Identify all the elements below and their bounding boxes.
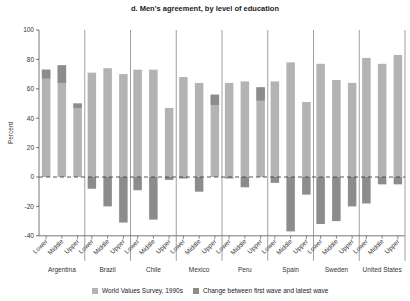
bar-wvs	[332, 80, 341, 177]
bar-wvs	[394, 55, 403, 177]
bar-wvs	[179, 77, 188, 177]
bar-wvs	[286, 62, 295, 177]
bar-change	[332, 177, 341, 221]
bar-change	[348, 177, 357, 206]
x-group-label: Spain	[282, 266, 299, 274]
x-sub-label: Middle	[321, 237, 340, 256]
bar-change	[149, 177, 158, 220]
y-axis-label: Percent	[7, 122, 14, 145]
bar-change	[378, 177, 387, 184]
y-tick-label: 60	[27, 85, 35, 92]
x-group-label: Mexico	[189, 266, 210, 273]
legend: World Values Survey, 1990s Change betwee…	[92, 287, 328, 294]
bar-wvs	[195, 83, 204, 177]
bar-wvs	[88, 73, 97, 177]
y-tick-label: -40	[25, 232, 35, 239]
bar-change	[73, 104, 82, 108]
x-sub-label: Middle	[183, 237, 202, 256]
bar-wvs	[378, 64, 387, 177]
bar-wvs	[316, 64, 325, 177]
x-group-label: Chile	[146, 266, 161, 273]
x-sub-label: Middle	[138, 237, 157, 256]
bar-change	[119, 177, 128, 223]
bar-wvs	[225, 83, 234, 177]
legend-item-wvs: World Values Survey, 1990s	[92, 287, 183, 294]
legend-swatch-wvs	[92, 288, 98, 294]
y-tick-label: 80	[27, 56, 35, 63]
bar-change	[302, 177, 311, 195]
x-group-label: Peru	[238, 266, 252, 273]
bar-change	[241, 177, 250, 187]
bar-wvs	[348, 83, 357, 177]
bar-change	[211, 95, 220, 105]
bar-change	[271, 177, 280, 183]
bar-wvs	[119, 74, 128, 177]
y-tick-label: -20	[25, 203, 35, 210]
x-sub-label: Middle	[46, 237, 65, 256]
legend-swatch-change	[193, 288, 199, 294]
bar-change	[286, 177, 295, 231]
bar-change	[88, 177, 97, 189]
bar-wvs	[73, 104, 82, 178]
x-sub-label: Middle	[275, 237, 294, 256]
bar-change	[42, 70, 51, 79]
bar-change	[394, 177, 403, 184]
bar-change	[316, 177, 325, 224]
y-tick-label: 100	[23, 26, 34, 33]
legend-label-change: Change between first wave and latest wav…	[203, 287, 328, 294]
bar-wvs	[133, 70, 142, 177]
x-sub-label: Upper	[383, 237, 402, 256]
x-sub-label: Middle	[366, 237, 385, 256]
x-group-label: United States	[363, 266, 403, 273]
bar-wvs	[211, 95, 220, 177]
bar-wvs	[103, 68, 112, 177]
bar-change	[256, 87, 265, 100]
bar-wvs	[302, 102, 311, 177]
bar-wvs	[256, 87, 265, 177]
bar-change	[195, 177, 204, 192]
x-sub-label: Middle	[229, 237, 248, 256]
bar-change	[58, 65, 67, 83]
legend-item-change: Change between first wave and latest wav…	[193, 287, 328, 294]
y-tick-label: 20	[27, 144, 35, 151]
y-tick-label: 0	[30, 173, 34, 180]
bar-wvs	[271, 81, 280, 177]
bar-wvs	[42, 70, 51, 177]
y-tick-label: 40	[27, 115, 35, 122]
bar-wvs	[362, 58, 371, 177]
bar-change	[362, 177, 371, 203]
x-group-label: Argentina	[48, 266, 76, 274]
bar-change	[103, 177, 112, 206]
bar-wvs	[241, 81, 250, 177]
bar-wvs	[165, 108, 174, 177]
bar-change	[133, 177, 142, 190]
x-group-label: Sweden	[325, 266, 349, 273]
x-sub-label: Middle	[92, 237, 111, 256]
x-group-label: Brazil	[99, 266, 116, 273]
bar-chart: -40-20020406080100PercentLowerMiddleUppe…	[0, 0, 410, 301]
legend-label-wvs: World Values Survey, 1990s	[102, 287, 183, 294]
bar-wvs	[149, 70, 158, 177]
